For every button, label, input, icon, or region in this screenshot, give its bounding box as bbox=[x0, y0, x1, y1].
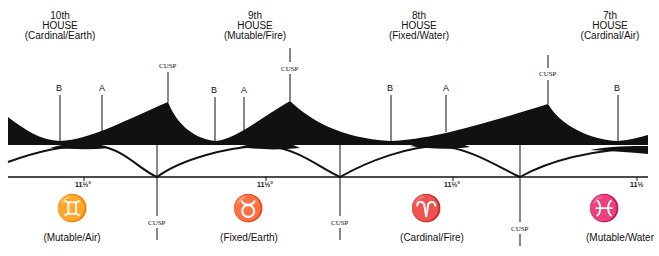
house-quality: (Fixed/Water) bbox=[359, 31, 479, 41]
cusp-label: CUSP bbox=[511, 225, 529, 233]
degree-tick-label: 11½° bbox=[257, 181, 273, 188]
house-quality: (Mutable/Fire) bbox=[195, 31, 315, 41]
point-a-label: A bbox=[241, 85, 247, 95]
point-a-label: A bbox=[99, 83, 105, 93]
house-wave-fill bbox=[8, 101, 648, 145]
point-b-label: B bbox=[387, 83, 393, 93]
taurus-glyph-icon: ♉ bbox=[218, 195, 278, 221]
point-a-label: A bbox=[443, 83, 449, 93]
point-b-label: B bbox=[211, 85, 217, 95]
house-7-label: 7th HOUSE (Cardinal/Air) bbox=[550, 11, 659, 41]
sign-quality-label: (Mutable/Air) bbox=[12, 232, 132, 243]
house-9-label: 9th HOUSE (Mutable/Fire) bbox=[195, 11, 315, 41]
cusp-label: CUSP bbox=[281, 65, 299, 73]
sign-wave bbox=[8, 146, 648, 177]
house-quality: (Cardinal/Air) bbox=[550, 31, 659, 41]
cusp-label: CUSP bbox=[539, 70, 557, 78]
house-10-label: 10th HOUSE (Cardinal/Earth) bbox=[0, 11, 120, 41]
house-quality: (Cardinal/Earth) bbox=[0, 31, 120, 41]
sign-quality-label: (Mutable/Water bbox=[560, 232, 659, 243]
cusp-label: CUSP bbox=[148, 219, 166, 227]
point-b-label: B bbox=[614, 83, 620, 93]
degree-tick-label: 11½° bbox=[75, 181, 91, 188]
aries-glyph-icon: ♈ bbox=[396, 195, 456, 221]
cusp-label: CUSP bbox=[159, 62, 177, 70]
sign-quality-label: (Fixed/Earth) bbox=[189, 232, 309, 243]
point-b-label: B bbox=[56, 83, 62, 93]
pisces-glyph-icon: ♓ bbox=[574, 195, 634, 221]
house-8-label: 8th HOUSE (Fixed/Water) bbox=[359, 11, 479, 41]
gemini-glyph-icon: ♊ bbox=[42, 195, 102, 221]
degree-tick-label: 11½ bbox=[630, 181, 643, 188]
degree-tick-label: 11½° bbox=[444, 181, 460, 188]
cusp-label: CUSP bbox=[331, 219, 349, 227]
sign-quality-label: (Cardinal/Fire) bbox=[372, 232, 492, 243]
